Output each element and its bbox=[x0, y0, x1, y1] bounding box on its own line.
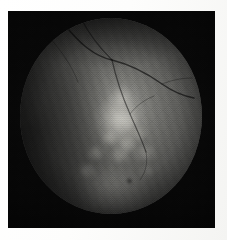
peripheral-vignette bbox=[20, 18, 202, 214]
photo-frame bbox=[8, 11, 215, 228]
fundus-figure bbox=[0, 0, 227, 240]
fundus-disc bbox=[20, 18, 202, 214]
